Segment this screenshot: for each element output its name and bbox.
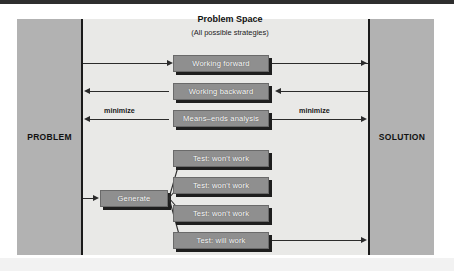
test-node-label: Test: won't work — [193, 209, 249, 218]
page-subtitle: (All possible strategies) — [140, 28, 320, 37]
edge-working-forward-to-solution — [272, 63, 368, 64]
edge-means-ends-to-solution — [272, 119, 362, 120]
test-node-2[interactable]: Test: won't work — [173, 177, 269, 194]
arrowhead-into-generate — [93, 195, 99, 201]
diagram-canvas: PROBLEM SOLUTION Problem Space (All poss… — [0, 0, 454, 271]
strategy-node-working-backward[interactable]: Working backward — [173, 83, 269, 100]
edge-means-ends-to-problem — [90, 119, 169, 120]
test-node-label: Test: won't work — [193, 154, 249, 163]
solution-pillar: SOLUTION — [370, 19, 434, 255]
arrowhead-into-solution-row1 — [361, 60, 367, 66]
edge-solution-to-working-backward — [281, 91, 368, 92]
edge-label-minimize-left: minimize — [104, 106, 135, 115]
test-node-label: Test: won't work — [193, 181, 249, 190]
edge-problem-to-working-forward — [83, 63, 169, 64]
edge-working-backward-to-problem — [90, 91, 169, 92]
generate-node-label: Generate — [118, 194, 151, 203]
edge-label-minimize-right: minimize — [299, 106, 330, 115]
strategy-node-label: Working forward — [192, 59, 249, 68]
generate-node[interactable]: Generate — [100, 190, 168, 207]
scan-artifact-bottom — [0, 258, 454, 271]
scan-artifact-top-gap — [0, 4, 454, 7]
test-node-label: Test: will work — [196, 236, 245, 245]
problem-space-right-border — [368, 19, 370, 255]
strategy-node-label: Working backward — [189, 87, 254, 96]
test-node-1[interactable]: Test: won't work — [173, 150, 269, 167]
edge-test-will-work-to-solution — [272, 240, 362, 241]
strategy-node-label: Means–ends analysis — [183, 114, 259, 123]
page-title: Problem Space — [140, 14, 320, 24]
problem-pillar: PROBLEM — [17, 19, 82, 255]
problem-pillar-label: PROBLEM — [17, 132, 82, 142]
strategy-node-means-ends-analysis[interactable]: Means–ends analysis — [173, 110, 269, 127]
test-node-4[interactable]: Test: will work — [173, 232, 269, 249]
solution-pillar-label: SOLUTION — [370, 132, 434, 142]
arrowhead-into-solution-row3 — [361, 116, 367, 122]
test-node-3[interactable]: Test: won't work — [173, 205, 269, 222]
arrowhead-into-solution-row4 — [361, 237, 367, 243]
strategy-node-working-forward[interactable]: Working forward — [173, 55, 269, 72]
problem-space-left-border — [81, 19, 83, 255]
